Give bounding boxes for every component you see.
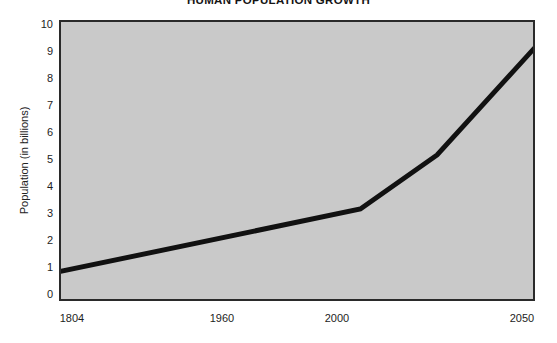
y-tick-label: 10 bbox=[27, 18, 53, 30]
y-tick-label: 5 bbox=[27, 153, 53, 165]
chart-figure: HUMAN POPULATION GROWTH Population (in b… bbox=[0, 0, 557, 343]
series-line-chart bbox=[61, 22, 533, 299]
chart-title: HUMAN POPULATION GROWTH bbox=[0, 0, 557, 7]
y-tick-label: 9 bbox=[27, 45, 53, 57]
x-tick-label: 1804 bbox=[37, 312, 107, 325]
x-axis-tick-labels: 1804 1960 2000 2050 bbox=[0, 312, 557, 328]
x-tick-label: 1960 bbox=[187, 312, 257, 325]
y-tick-label: 4 bbox=[27, 180, 53, 192]
y-tick-label: 0 bbox=[27, 288, 53, 300]
plot-area bbox=[59, 20, 535, 301]
y-axis-tick-labels: 10 9 8 7 6 5 4 3 2 1 0 bbox=[20, 0, 53, 343]
y-tick-label: 1 bbox=[27, 261, 53, 273]
x-tick-label: 2050 bbox=[487, 312, 557, 325]
population-line-series bbox=[61, 50, 533, 272]
y-tick-label: 8 bbox=[27, 72, 53, 84]
y-tick-label: 3 bbox=[27, 207, 53, 219]
x-tick-label: 2000 bbox=[302, 312, 372, 325]
y-tick-label: 2 bbox=[27, 234, 53, 246]
y-tick-label: 6 bbox=[27, 126, 53, 138]
y-tick-label: 7 bbox=[27, 99, 53, 111]
